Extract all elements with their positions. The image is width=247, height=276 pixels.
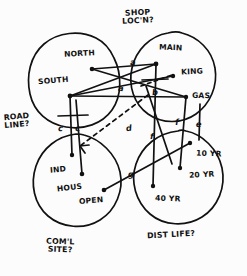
edge-label-a-lower: a [118, 84, 124, 93]
node-dot-open [102, 188, 107, 193]
edge-label-d: d [126, 124, 133, 133]
edge-label-a-upper: a [130, 58, 136, 67]
edge-label-e: e [196, 120, 202, 129]
edge-label-f-left: f [150, 132, 154, 140]
node-dot-10yr [188, 141, 192, 145]
node-dot-king [171, 74, 175, 78]
node-dot-20yr [178, 166, 182, 170]
node-dot-north [90, 67, 95, 72]
node-dot-hous [80, 172, 85, 177]
node-dot-ind [70, 153, 74, 157]
node-dot-main [154, 62, 159, 67]
edge-label-b: b [152, 88, 159, 97]
node-dot-40yr [151, 184, 155, 188]
node-dot-layer [0, 0, 247, 276]
edge-label-g: g [128, 170, 135, 179]
edge-label-c-left: c [58, 124, 63, 133]
diagram-canvas: SHOP LOC'N? ROAD LINE? COM'L SITE? DIST … [0, 0, 247, 276]
node-dot-gas [184, 95, 188, 99]
edge-label-c-right: c [75, 124, 80, 133]
edge-label-f-right: f [175, 118, 179, 127]
node-dot-south [68, 94, 73, 99]
